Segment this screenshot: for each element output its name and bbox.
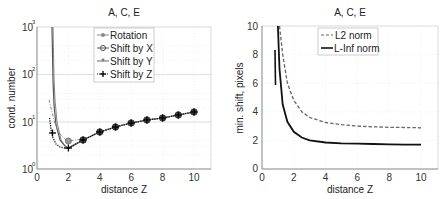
left-chart-title: A, C, E [108, 7, 140, 18]
svg-text:2: 2 [291, 172, 297, 183]
svg-text:2: 2 [32, 66, 36, 72]
svg-text:Shift by X: Shift by X [110, 43, 153, 54]
svg-text:6: 6 [355, 172, 361, 183]
right-y-tick-labels: 0 2 4 6 8 10 [247, 21, 259, 175]
svg-text:Shift by Z: Shift by Z [110, 69, 152, 80]
svg-text:2: 2 [66, 172, 72, 183]
svg-text:0: 0 [34, 172, 40, 183]
svg-text:10: 10 [415, 172, 427, 183]
svg-text:3: 3 [32, 19, 36, 25]
svg-text:2: 2 [252, 135, 258, 146]
svg-text:1: 1 [32, 114, 36, 120]
svg-text:8: 8 [386, 172, 392, 183]
right-x-axis-label: distance Z [327, 184, 373, 195]
svg-text:10: 10 [247, 21, 259, 32]
svg-text:L2 norm: L2 norm [335, 30, 372, 41]
svg-text:6: 6 [252, 78, 258, 89]
left-legend: Rotation Shift by X * Shift by Y Shift b… [94, 28, 154, 82]
svg-text:Shift by Y: Shift by Y [110, 56, 153, 67]
svg-text:0: 0 [32, 161, 36, 167]
left-chart: 0 2 4 6 8 10 10 0 10 1 10 2 10 3 A, C, E… [6, 7, 211, 195]
svg-text:0: 0 [252, 163, 258, 174]
svg-text:8: 8 [160, 172, 166, 183]
svg-text:Rotation: Rotation [110, 30, 147, 41]
right-chart: 0 2 4 6 8 10 0 2 4 6 8 10 A, C, E distan… [234, 7, 438, 195]
l-inf-norm-artifact [275, 50, 276, 85]
right-legend: L2 norm L-Inf norm [318, 28, 380, 55]
right-x-tick-labels: 0 2 4 6 8 10 [259, 172, 427, 183]
left-y-axis-label: cond. number [6, 67, 17, 129]
svg-text:L-Inf norm: L-Inf norm [334, 43, 380, 54]
right-chart-title: A, C, E [334, 7, 366, 18]
left-x-axis-label: distance Z [101, 184, 147, 195]
figure: 0 2 4 6 8 10 10 0 10 1 10 2 10 3 A, C, E… [0, 0, 447, 199]
svg-text:4: 4 [97, 172, 103, 183]
svg-text:4: 4 [252, 106, 258, 117]
svg-text:8: 8 [252, 49, 258, 60]
svg-text:4: 4 [323, 172, 329, 183]
svg-text:*: * [101, 56, 105, 66]
right-y-axis-label: min. shift, pixels [234, 62, 245, 133]
left-y-tick-labels: 10 0 10 1 10 2 10 3 [22, 19, 36, 175]
svg-text:0: 0 [259, 172, 265, 183]
svg-text:6: 6 [128, 172, 134, 183]
svg-text:10: 10 [188, 172, 200, 183]
left-x-tick-labels: 0 2 4 6 8 10 [34, 172, 200, 183]
